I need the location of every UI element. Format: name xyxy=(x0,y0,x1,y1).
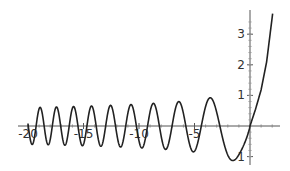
function-curve xyxy=(28,14,273,161)
plot-area: -20-15-10-5 1231 xyxy=(0,0,290,171)
y-tick-label: 1 xyxy=(237,88,245,102)
x-tick-label: -15 xyxy=(74,127,94,141)
y-tick-label: 2 xyxy=(237,58,245,72)
y-tick-label: 3 xyxy=(237,27,245,41)
